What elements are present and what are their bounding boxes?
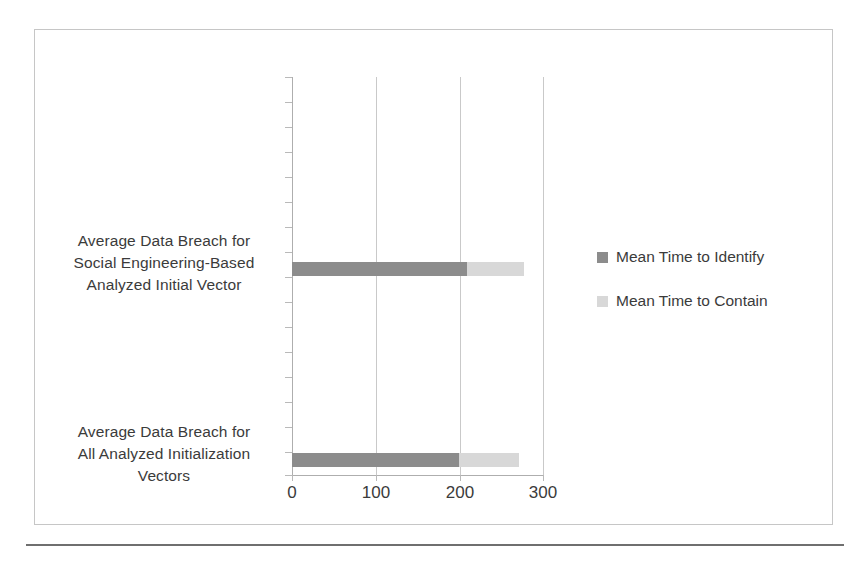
x-tick-label-300: 300 [513,482,573,504]
gridline-300 [543,77,544,475]
legend-label: Mean Time to Contain [616,291,768,311]
bar-segment-mean-time-to-contain[interactable] [467,262,524,276]
plot-area [292,77,543,475]
x-axis-tick-0 [292,475,293,481]
legend-swatch-icon [597,252,608,263]
y-axis-tick [285,127,292,128]
y-axis-tick [285,352,292,353]
legend-swatch-icon [597,296,608,307]
gridline-200 [460,77,461,475]
legend-item-mean-time-to-identify[interactable]: Mean Time to Identify [597,242,768,272]
category-label-line: Vectors [39,465,289,487]
x-axis-tick-100 [376,475,377,481]
legend-label: Mean Time to Identify [616,247,764,267]
chart-container: 0 100 200 300 Average Data Breach for So… [34,29,833,525]
x-tick-label-200: 200 [430,482,490,504]
y-axis-tick [285,77,292,78]
y-axis-tick [285,377,292,378]
category-label-line: Average Data Breach for [39,230,289,252]
y-axis-tick [285,302,292,303]
bar-segment-mean-time-to-identify[interactable] [292,262,467,276]
category-label-line: Average Data Breach for [39,421,289,443]
category-label-line: Analyzed Initial Vector [39,274,289,296]
category-label-line: Social Engineering-Based [39,252,289,274]
x-axis-tick-300 [543,475,544,481]
y-axis-tick [285,327,292,328]
page-divider-rule [26,544,844,546]
bar-row-social-engineering[interactable] [292,262,524,276]
x-tick-label-100: 100 [346,482,406,504]
category-label-all-analyzed: Average Data Breach for All Analyzed Ini… [39,421,289,487]
category-label-social-engineering: Average Data Breach for Social Engineeri… [39,230,289,296]
y-axis-tick [285,152,292,153]
category-label-line: All Analyzed Initialization [39,443,289,465]
legend-item-mean-time-to-contain[interactable]: Mean Time to Contain [597,286,768,316]
y-axis-tick [285,227,292,228]
chart-legend: Mean Time to Identify Mean Time to Conta… [597,242,768,330]
y-axis-tick [285,402,292,403]
x-axis-tick-200 [460,475,461,481]
y-axis-tick [285,202,292,203]
bar-row-all-analyzed[interactable] [292,453,519,467]
bar-segment-mean-time-to-contain[interactable] [459,453,518,467]
gridline-100 [376,77,377,475]
y-axis-tick [285,177,292,178]
bar-segment-mean-time-to-identify[interactable] [292,453,459,467]
y-axis-tick [285,102,292,103]
x-axis-line [292,475,544,476]
